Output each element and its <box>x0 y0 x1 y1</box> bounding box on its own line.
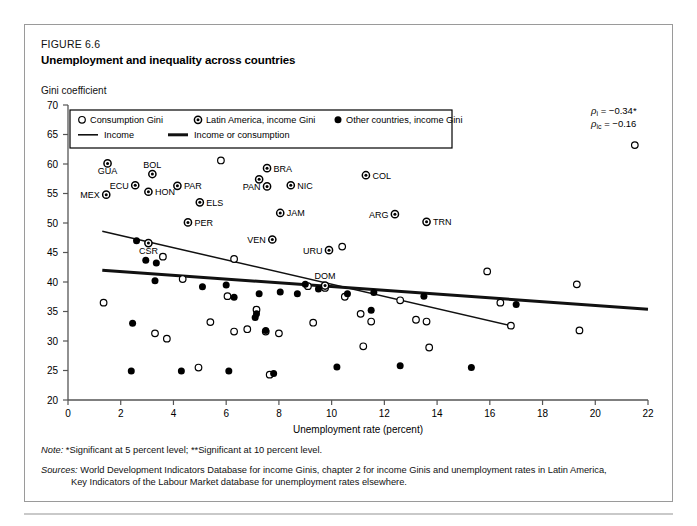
legend-label-0: Consumption Gini <box>90 115 163 125</box>
data-point <box>218 157 225 164</box>
correlation-annotations: ρi = −0.34*ρic = −0.16 <box>590 105 637 130</box>
point-label-arg: ARG <box>369 210 389 220</box>
legend-marker-1-center <box>197 118 200 121</box>
data-point <box>195 364 202 371</box>
data-point-center <box>147 190 150 193</box>
legend-label-2: Other countries, income Gini <box>346 115 462 125</box>
x-tick-label: 18 <box>537 408 549 419</box>
data-point <box>574 281 581 288</box>
data-point <box>413 316 420 323</box>
point-label-bra: BRA <box>274 164 293 174</box>
point-label-uru: URU <box>303 246 323 256</box>
data-point <box>632 142 639 149</box>
data-point <box>397 362 404 369</box>
data-point <box>152 277 159 284</box>
data-point <box>252 314 259 321</box>
x-axis-label: Unemployment rate (percent) <box>293 424 423 435</box>
data-point <box>426 344 433 351</box>
point-label-ven: VEN <box>247 235 266 245</box>
point-label-jam: JAM <box>287 208 305 218</box>
data-point-center <box>151 173 154 176</box>
point-label-trn: TRN <box>433 217 452 227</box>
data-point-center <box>106 162 109 165</box>
data-point <box>244 326 251 333</box>
data-point <box>199 283 206 290</box>
data-point <box>357 311 364 318</box>
sources-line: Sources: World Development Indicators Da… <box>41 464 651 489</box>
data-point <box>270 370 277 377</box>
data-point <box>302 281 309 288</box>
legend-marker-0 <box>79 117 86 124</box>
point-label-csr: CSR <box>139 246 159 256</box>
y-tick-label: 20 <box>47 395 59 406</box>
data-point <box>344 290 351 297</box>
data-point-center <box>198 201 201 204</box>
data-point <box>256 290 263 297</box>
y-tick-label: 30 <box>47 336 59 347</box>
x-tick-label: 10 <box>326 408 338 419</box>
data-point-center <box>289 184 292 187</box>
data-point <box>231 294 238 301</box>
data-point-center <box>364 174 367 177</box>
data-point-center <box>134 184 137 187</box>
data-point <box>368 318 375 325</box>
legend-marker-2 <box>335 116 342 123</box>
x-tick-label: 16 <box>484 408 496 419</box>
sources-text-1: World Development Indicators Database fo… <box>80 465 606 475</box>
data-point <box>513 301 520 308</box>
x-tick-label: 12 <box>379 408 391 419</box>
data-point-center <box>328 249 331 252</box>
figure-container: FIGURE 6.6 Unemployment and inequality a… <box>0 0 697 526</box>
data-point <box>370 289 377 296</box>
y-tick-label: 50 <box>47 218 59 229</box>
y-tick-label: 25 <box>47 365 59 376</box>
data-point <box>100 299 107 306</box>
data-point <box>484 268 491 275</box>
data-point <box>153 260 160 267</box>
sources-label: Sources: <box>41 465 78 475</box>
x-tick-label: 2 <box>118 408 124 419</box>
data-point <box>223 281 230 288</box>
point-label-dom: DOM <box>315 271 336 281</box>
data-point <box>277 289 284 296</box>
y-tick-label: 35 <box>47 306 59 317</box>
y-tick-label: 55 <box>47 188 59 199</box>
chart-legend: Consumption GiniLatin America, income Gi… <box>70 110 462 148</box>
data-point <box>276 330 283 337</box>
data-point <box>294 290 301 297</box>
data-point-center <box>176 184 179 187</box>
data-point <box>231 328 238 335</box>
data-point-center <box>258 178 261 181</box>
x-tick-label: 4 <box>171 408 177 419</box>
data-point-center <box>186 221 189 224</box>
data-point-center <box>105 193 108 196</box>
data-point <box>497 299 504 306</box>
data-point <box>339 243 346 250</box>
point-label-per: PER <box>194 218 213 228</box>
note-label: Note: <box>41 445 63 455</box>
data-point <box>179 276 186 283</box>
data-point <box>152 330 159 337</box>
x-tick-label: 22 <box>642 408 654 419</box>
y-tick-label: 70 <box>47 100 59 111</box>
legend-line-label-1: Income or consumption <box>194 130 290 140</box>
data-point <box>178 368 185 375</box>
legend-label-1: Latin America, income Gini <box>206 115 315 125</box>
x-tick-label: 8 <box>276 408 282 419</box>
legend-line-label-0: Income <box>104 130 134 140</box>
point-label-mex: MEX <box>80 190 100 200</box>
data-point <box>129 320 136 327</box>
data-point <box>468 364 475 371</box>
point-label-par: PAR <box>184 181 202 191</box>
data-point <box>164 335 171 342</box>
data-point-center <box>279 211 282 214</box>
data-point <box>420 293 427 300</box>
y-tick-label: 45 <box>47 247 59 258</box>
data-point <box>368 307 375 314</box>
point-label-col: COL <box>372 171 391 181</box>
data-point <box>207 319 214 326</box>
data-point <box>262 327 269 334</box>
data-point-center <box>324 284 327 287</box>
figure-notes: Note: *Significant at 5 percent level; *… <box>41 444 651 496</box>
note-line: Note: *Significant at 5 percent level; *… <box>41 444 651 457</box>
